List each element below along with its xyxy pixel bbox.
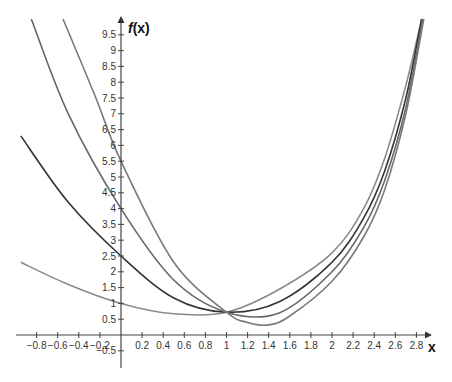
x-tick-label: 2.2	[346, 340, 360, 351]
y-tick-label: 9.5	[102, 29, 116, 40]
y-tick-label: 8.5	[102, 61, 116, 72]
x-tick-label: 2.6	[388, 340, 402, 351]
x-tick-label: −0.8	[27, 340, 47, 351]
x-tick-label: 0.6	[177, 340, 191, 351]
y-tick-label: 1	[110, 298, 116, 309]
x-tick-label: 2.8	[409, 340, 423, 351]
x-tick-label: 2.4	[367, 340, 381, 351]
y-tick-label: 4	[110, 203, 116, 214]
x-tick-label: 0.4	[156, 340, 170, 351]
y-tick-label: 8	[110, 77, 116, 88]
series-curve-3	[31, 19, 422, 317]
y-tick-label: 7	[110, 108, 116, 119]
y-tick-label: 0.5	[102, 314, 116, 325]
y-tick-label: 2.5	[102, 251, 116, 262]
y-tick-label: 5.5	[102, 156, 116, 167]
x-tick-label: 2	[329, 340, 335, 351]
y-tick-label: 5	[110, 172, 116, 183]
series-curve-4	[63, 19, 424, 325]
x-tick-label: 0.2	[135, 340, 149, 351]
x-tick-label: 1.2	[241, 340, 255, 351]
y-tick-label: 9	[110, 45, 116, 56]
y-axis-arrow-icon	[118, 16, 125, 23]
x-tick-label: −0.4	[69, 340, 89, 351]
ticks-group: −0.8−0.6−0.4−0.20.20.40.60.811.21.41.61.…	[27, 29, 424, 356]
x-tick-label: 1	[224, 340, 230, 351]
y-tick-label: 7.5	[102, 93, 116, 104]
y-tick-label: −0.5	[96, 345, 116, 356]
x-tick-label: 0.8	[198, 340, 212, 351]
x-tick-label: −0.6	[48, 340, 68, 351]
y-axis-title: f(x)	[128, 20, 150, 36]
x-axis-title: x	[428, 339, 436, 355]
y-tick-label: 1.5	[102, 282, 116, 293]
function-plot: −0.8−0.6−0.4−0.20.20.40.60.811.21.41.61.…	[0, 0, 452, 382]
y-tick-label: 4.5	[102, 187, 116, 198]
y-tick-label: 3	[110, 235, 116, 246]
x-axis-arrow-icon	[425, 332, 432, 339]
axes-group	[16, 16, 432, 368]
y-tick-label: 3.5	[102, 219, 116, 230]
y-tick-label: 6.5	[102, 124, 116, 135]
x-tick-label: 1.4	[262, 340, 276, 351]
x-tick-label: 1.6	[283, 340, 297, 351]
x-tick-label: 1.8	[304, 340, 318, 351]
curves-group	[21, 19, 424, 325]
y-tick-label: 6	[110, 140, 116, 151]
y-tick-label: 2	[110, 266, 116, 277]
